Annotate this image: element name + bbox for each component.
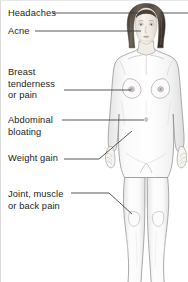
hand-right	[177, 146, 187, 167]
label-acne-line-1: Acne	[8, 26, 30, 38]
leader-joint	[71, 193, 132, 214]
label-breast-line-2: tenderness	[8, 79, 55, 91]
label-acne: Acne	[8, 26, 30, 38]
label-joint-line-1: Joint, muscle	[8, 189, 64, 201]
label-breast-tenderness: Breast tenderness or pain	[8, 67, 55, 102]
symptom-diagram: Headaches Acne Breast tenderness or pain…	[0, 0, 188, 282]
pupil-right	[151, 23, 153, 25]
leg-left	[123, 178, 145, 282]
label-headaches-line-1: Headaches	[8, 8, 56, 20]
label-weight-line-1: Weight gain	[8, 153, 58, 165]
label-breast-line-3: or pain	[8, 90, 55, 102]
label-headaches: Headaches	[8, 8, 56, 20]
body-illustration	[1, 1, 188, 282]
mouth	[143, 36, 149, 37]
label-abdominal-bloating: Abdominal bloating	[8, 115, 53, 138]
nipple-right	[160, 88, 162, 90]
label-weight-gain: Weight gain	[8, 153, 58, 165]
label-abdominal-line-1: Abdominal	[8, 115, 53, 127]
pupil-left	[140, 23, 142, 25]
label-breast-line-1: Breast	[8, 67, 55, 79]
label-joint-muscle-back-pain: Joint, muscle or back pain	[8, 189, 64, 212]
navel	[145, 117, 148, 121]
leg-right	[147, 178, 169, 282]
label-joint-line-2: or back pain	[8, 201, 64, 213]
label-abdominal-line-2: bloating	[8, 127, 53, 139]
